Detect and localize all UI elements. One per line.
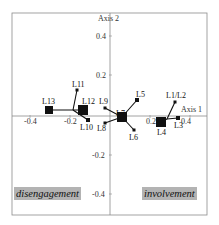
label-L3: L3 bbox=[174, 121, 183, 130]
label-L6: L6 bbox=[129, 133, 138, 142]
marker-L10 bbox=[86, 118, 90, 122]
region-label-involvement: involvement bbox=[142, 187, 197, 200]
y-tick-label: 0.2 bbox=[96, 71, 106, 80]
region-label-disengagement: disengagement bbox=[14, 187, 81, 200]
marker-L12 bbox=[78, 105, 88, 115]
label-L10: L10 bbox=[80, 123, 93, 132]
label-L8: L8 bbox=[97, 124, 106, 133]
axis-2-title: Axis 2 bbox=[98, 14, 119, 23]
axis-1-title: Axis 1 bbox=[181, 105, 202, 114]
marker-L6 bbox=[133, 129, 136, 132]
marker-L1-L2 bbox=[174, 101, 177, 104]
x-tick-label: -0.2 bbox=[64, 117, 77, 126]
label-L7: L7 bbox=[116, 109, 125, 118]
x-tick-label: -0.4 bbox=[24, 117, 37, 126]
marker-L9 bbox=[104, 107, 107, 110]
label-L1-L2: L1/L2 bbox=[166, 91, 186, 100]
label-L9: L9 bbox=[99, 97, 108, 106]
marker-L3 bbox=[176, 116, 180, 120]
label-L5: L5 bbox=[136, 90, 145, 99]
x-tick-label: 0.2 bbox=[146, 117, 156, 126]
marker-L13 bbox=[45, 106, 53, 114]
label-L4: L4 bbox=[157, 128, 166, 137]
plot-frame bbox=[12, 13, 207, 215]
y-tick-label: -0.4 bbox=[92, 190, 105, 199]
y-tick-label: -0.2 bbox=[92, 151, 105, 160]
label-L12: L12 bbox=[82, 97, 95, 106]
y-tick-label: 0.4 bbox=[96, 32, 106, 41]
marker-L4 bbox=[156, 117, 166, 127]
label-L13: L13 bbox=[42, 97, 55, 106]
label-L11: L11 bbox=[72, 80, 85, 89]
